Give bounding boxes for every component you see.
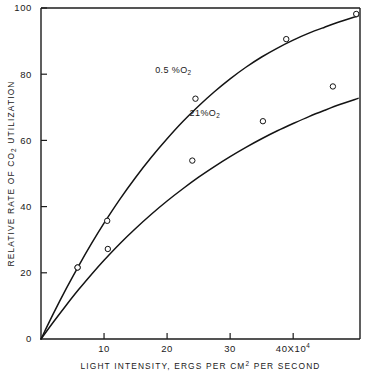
x-tick-label: 10 [98,343,110,354]
x-tick-label: 40X104 [276,342,311,354]
series-annotations: 0.5 %O221%O2 [155,65,220,120]
y-tick-label: 20 [20,267,32,278]
y-tick-label: 40 [20,201,32,212]
y-tick-label: 60 [20,135,32,146]
y-tick-label: 80 [20,69,32,80]
data-point-marker [260,119,265,124]
y-tick-label: 100 [14,2,32,13]
x-tick-label: 30 [224,343,236,354]
data-point-marker [75,265,80,270]
chart-figure: 02040608010010203040X104 0.5 %O221%O2 LI… [0,0,375,376]
data-markers [75,11,359,270]
axis-titles: LIGHT INTENSITY, ERGS PER CM2 PER SECOND… [6,80,321,371]
series-label-1: 0.5 %O2 [155,65,191,77]
curve-series-2 [41,98,358,339]
x-tick-label: 20 [161,343,173,354]
axis-lines [41,8,360,339]
curve-series-1 [41,16,358,339]
data-curves [41,16,358,339]
data-point-marker [354,11,359,16]
y-axis-title: RELATIVE RATE OF CO2 UTILIZATION [6,80,17,266]
data-point-marker [105,246,110,251]
data-point-marker [284,36,289,41]
data-point-marker [190,158,195,163]
data-point-marker [330,84,335,89]
data-point-marker [193,96,198,101]
axes [41,8,360,339]
y-tick-label: 0 [26,333,32,344]
x-axis-title: LIGHT INTENSITY, ERGS PER CM2 PER SECOND [80,360,320,371]
data-point-marker [105,218,110,223]
series-label-2: 21%O2 [190,108,221,120]
co2-light-intensity-chart: 02040608010010203040X104 0.5 %O221%O2 LI… [0,0,375,376]
